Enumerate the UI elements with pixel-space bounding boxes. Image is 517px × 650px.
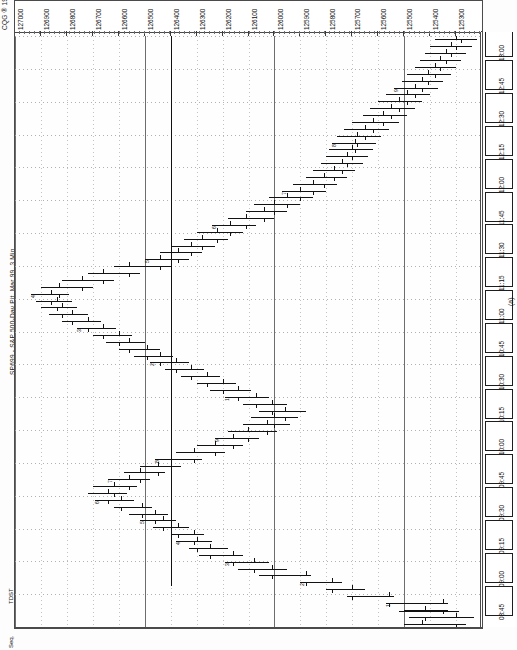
bar-close-tick bbox=[217, 239, 218, 243]
countdown-digit: 2 bbox=[149, 364, 155, 367]
bar-close-tick bbox=[256, 404, 257, 408]
ohlc-bar bbox=[155, 459, 202, 460]
time-tick-label: 12:00 bbox=[498, 177, 505, 193]
bar-close-tick bbox=[57, 307, 58, 311]
bar-open-tick bbox=[422, 620, 423, 624]
bar-close-tick bbox=[440, 67, 441, 71]
ohlc-bar bbox=[225, 397, 269, 398]
ohlc-bar bbox=[181, 376, 220, 377]
time-tick-label: 11:45 bbox=[498, 210, 505, 226]
bar-open-tick bbox=[274, 413, 275, 417]
bar-close-tick bbox=[163, 527, 164, 531]
bar-close-tick bbox=[272, 411, 273, 415]
ohlc-bar bbox=[228, 431, 277, 432]
ohlc-bar bbox=[337, 136, 381, 137]
bar-open-tick bbox=[352, 145, 353, 149]
ohlc-bar bbox=[129, 514, 168, 515]
bar-open-tick bbox=[72, 310, 73, 314]
bar-close-tick bbox=[287, 204, 288, 208]
ohlc-bar bbox=[259, 575, 311, 576]
bar-close-tick bbox=[108, 500, 109, 504]
ohlc-bar bbox=[36, 301, 72, 302]
bar-open-tick bbox=[256, 393, 257, 397]
countdown-digit: 1 bbox=[224, 398, 230, 401]
time-gridline bbox=[15, 167, 482, 168]
price-tick-label: 125800 bbox=[329, 9, 336, 30]
bar-close-tick bbox=[62, 314, 63, 318]
price-axis[interactable]: 1270001269001268001267001266001265001264… bbox=[14, 0, 481, 33]
countdown-digit: 7 bbox=[281, 192, 287, 195]
bar-open-tick bbox=[357, 132, 358, 136]
time-gridline bbox=[15, 233, 482, 234]
ohlc-bar bbox=[378, 101, 422, 102]
ohlc-bar bbox=[370, 108, 414, 109]
bar-close-tick bbox=[51, 301, 52, 305]
bar-close-tick bbox=[313, 191, 314, 195]
bar-close-tick bbox=[347, 163, 348, 167]
ohlc-bar bbox=[402, 81, 444, 82]
bar-open-tick bbox=[391, 104, 392, 108]
bar-open-tick bbox=[287, 193, 288, 197]
countdown-digit: 8 bbox=[154, 460, 160, 463]
ohlc-bar bbox=[254, 204, 301, 205]
time-axis[interactable]: 13:0012:4512:3012:1512:0011:4511:3011:15… bbox=[480, 32, 517, 627]
time-tick-label: 10:45 bbox=[498, 341, 505, 357]
ohlc-bar bbox=[93, 335, 132, 336]
ohlc-bar bbox=[243, 424, 290, 425]
plot-area[interactable]: 123456789123456789 bbox=[14, 36, 482, 628]
ohlc-bar bbox=[300, 582, 342, 583]
ohlc-bar bbox=[293, 184, 337, 185]
bar-close-tick bbox=[191, 252, 192, 256]
countdown-digit: 9 bbox=[214, 439, 220, 442]
bar-open-tick bbox=[233, 434, 234, 438]
time-gridline bbox=[15, 200, 482, 201]
ohlc-bar bbox=[95, 500, 134, 501]
bar-open-tick bbox=[355, 139, 356, 143]
bar-close-tick bbox=[88, 328, 89, 332]
ohlc-bar bbox=[228, 218, 275, 219]
bar-close-tick bbox=[274, 211, 275, 215]
bar-close-tick bbox=[158, 472, 159, 476]
ohlc-bar bbox=[386, 603, 448, 604]
bar-close-tick bbox=[140, 479, 141, 483]
bar-open-tick bbox=[121, 496, 122, 500]
bar-open-tick bbox=[140, 468, 141, 472]
bar-close-tick bbox=[456, 46, 457, 50]
price-tick-label: 126200 bbox=[225, 9, 232, 30]
time-tick-label: 09:45 bbox=[498, 472, 505, 488]
bar-close-tick bbox=[373, 129, 374, 133]
ohlc-bar bbox=[243, 404, 287, 405]
bar-open-tick bbox=[82, 276, 83, 280]
countdown-digit: 9 bbox=[393, 89, 399, 92]
time-tick-label: 10:15 bbox=[498, 407, 505, 423]
price-tick-label: 126100 bbox=[251, 9, 258, 30]
time-gridline bbox=[15, 496, 482, 497]
bar-close-tick bbox=[223, 390, 224, 394]
ohlc-bar bbox=[251, 417, 298, 418]
ohlc-bar bbox=[171, 246, 215, 247]
bar-open-tick bbox=[194, 530, 195, 534]
time-tick-label: 12:45 bbox=[498, 78, 505, 94]
bar-open-tick bbox=[223, 379, 224, 383]
bar-open-tick bbox=[129, 338, 130, 342]
bar-open-tick bbox=[238, 386, 239, 390]
time-tick-label: 09:30 bbox=[498, 505, 505, 521]
bar-close-tick bbox=[178, 259, 179, 263]
vendor-tag: CQG ® 1999 bbox=[1, 0, 8, 30]
ohlc-bar bbox=[108, 479, 150, 480]
bar-open-tick bbox=[202, 235, 203, 239]
ohlc-bar bbox=[326, 589, 365, 590]
bar-close-tick bbox=[119, 342, 120, 346]
ohlc-bar bbox=[420, 60, 462, 61]
time-gridline bbox=[15, 135, 482, 136]
bar-close-tick bbox=[155, 520, 156, 524]
bar-open-tick bbox=[274, 200, 275, 204]
ohlc-bar bbox=[409, 617, 474, 618]
bar-close-tick bbox=[178, 534, 179, 538]
ohlc-bar bbox=[41, 287, 93, 288]
bar-close-tick bbox=[461, 39, 462, 43]
bar-open-tick bbox=[147, 345, 148, 349]
bar-close-tick bbox=[332, 589, 333, 593]
ohlc-bar bbox=[124, 472, 166, 473]
bar-close-tick bbox=[129, 486, 130, 490]
